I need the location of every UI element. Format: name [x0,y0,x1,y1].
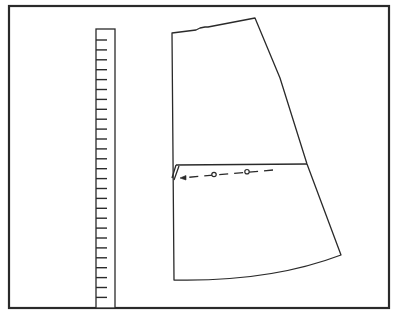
circle-marker-icon [245,170,249,174]
illustration-canvas [0,0,399,317]
measuring-ruler [96,29,115,308]
pattern-illustration [0,0,399,317]
circle-marker-icon [212,172,216,176]
